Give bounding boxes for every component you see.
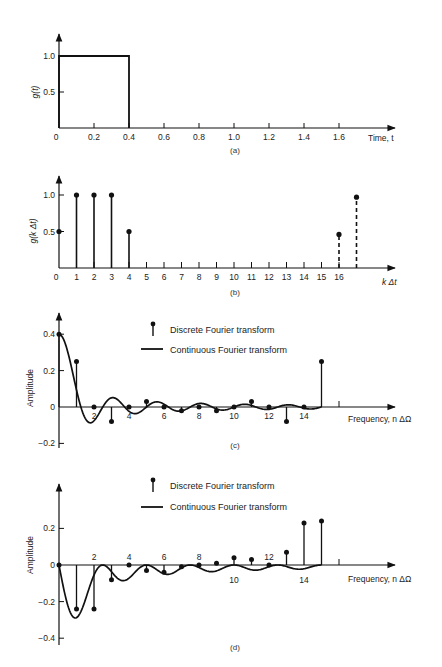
panel-b-xtick-label: 7 [179, 272, 184, 282]
legend-continuous-label: Continuous Fourier transform [170, 345, 287, 355]
panel-b-xtick-label: 8 [197, 272, 202, 282]
panel-d-stem-dot [319, 519, 324, 524]
panel-b-xtick-label: 6 [162, 272, 167, 282]
panel-d-caption: (d) [230, 643, 240, 652]
panel-d-stem-dot [197, 563, 202, 568]
panel-d-ylabel: Amplitude [25, 536, 35, 574]
panel-c: Amplitude Frequency, n ΔΩ (c) Discrete F… [25, 313, 411, 450]
legend-continuous-label: Continuous Fourier transform [170, 502, 287, 512]
panel-a-ytick-label: 1.0 [43, 51, 55, 61]
panel-a-origin-label: 0 [54, 132, 59, 142]
panel-b-xtick-label: 1 [74, 272, 79, 282]
panel-a-xtick-label: 0.4 [123, 132, 135, 142]
panel-c-ytick-label: 0.2 [43, 366, 55, 376]
legend-stem-dot-icon [151, 322, 156, 327]
panel-a-xtick-label: 1.2 [263, 132, 275, 142]
panel-c-legend: Discrete Fourier transform Continuous Fo… [141, 322, 287, 355]
panel-d-xtick-label: 10 [229, 575, 239, 585]
panel-c-ytick-label: 0 [50, 402, 55, 412]
panel-d-stem-dot [127, 563, 132, 568]
panel-b: g(k Δt) 0 k Δt (b) 123456789101112131415… [28, 176, 397, 297]
legend-discrete-label: Discrete Fourier transform [170, 325, 275, 335]
panel-a-xtick-label: 0.2 [88, 132, 100, 142]
panel-d-stem-dot [144, 568, 149, 573]
panel-b-xtick-label: 9 [214, 272, 219, 282]
panel-d-xtick-label: 2 [92, 552, 97, 562]
panel-c-stem-dot [162, 405, 167, 410]
panel-b-xtick-label: 15 [317, 272, 327, 282]
panel-a-xtick-label: 1.4 [298, 132, 310, 142]
legend-discrete-label: Discrete Fourier transform [170, 481, 275, 491]
panel-d-stem-dot [109, 577, 114, 582]
panel-c-xtick-label: 8 [197, 411, 202, 421]
panel-b-ytick-label: 0.5 [43, 227, 55, 237]
panel-d-stem-dot [284, 550, 289, 555]
panel-c-stem-dot [197, 405, 202, 410]
panel-d-stem-dot [74, 606, 79, 611]
panel-b-stem-dot [109, 192, 114, 197]
panel-d-legend: Discrete Fourier transform Continuous Fo… [141, 478, 287, 512]
panel-c-xtick-label: 12 [264, 411, 274, 421]
panel-d-continuous-curve [59, 565, 322, 618]
panel-d-stem-dot [92, 606, 97, 611]
panel-b-xtick-label: 12 [264, 272, 274, 282]
panel-b-xtick-label: 5 [144, 272, 149, 282]
panel-d-stem-dot [302, 520, 307, 525]
panel-a-xlabel: Time, t [368, 133, 394, 143]
panel-d-stem-dot [214, 561, 219, 566]
panel-d-xlabel: Frequency, n ΔΩ [348, 574, 411, 584]
panel-c-ytick-label: 0.4 [43, 329, 55, 339]
panel-b-xtick-label: 3 [109, 272, 114, 282]
panel-c-ytick-label: −0.2 [38, 438, 55, 448]
panel-b-xtick-label: 4 [127, 272, 132, 282]
panel-b-stem-dot [74, 192, 79, 197]
panel-d-stem-dot [179, 564, 184, 569]
panel-a-xtick-label: 0.8 [193, 132, 205, 142]
panel-b-stem-dot [91, 192, 96, 197]
panel-b-xtick-label: 14 [299, 272, 309, 282]
panel-d: Amplitude Frequency, n ΔΩ (d) Discrete F… [25, 478, 411, 652]
panel-b-stem-dot [56, 229, 61, 234]
panel-b-origin-label: 0 [54, 272, 59, 282]
panel-c-stem-dot [127, 405, 132, 410]
panel-c-caption: (c) [230, 441, 240, 450]
panel-a-ylabel: g(t) [30, 85, 40, 98]
figure: g(t) 0 Time, t (a) 0.20.40.60.81.01.21.4… [0, 0, 442, 667]
panel-c-stem-dot [109, 419, 114, 424]
panel-d-ytick-label: −0.2 [38, 597, 55, 607]
panel-b-ylabel: g(k Δt) [28, 218, 38, 243]
panel-d-ytick-label: −0.4 [38, 633, 55, 643]
panel-c-stem-dot [144, 399, 149, 404]
panel-c-stem-dot [232, 405, 237, 410]
panel-d-ytick-label: 0.2 [43, 523, 55, 533]
panel-c-stem-dot [74, 359, 79, 364]
panel-d-xtick-label: 8 [197, 552, 202, 562]
panel-d-stem-dot [232, 555, 237, 560]
panel-d-ytick-label: 0 [50, 560, 55, 570]
panel-c-xtick-label: 10 [229, 411, 239, 421]
panel-c-stem-dot [302, 405, 307, 410]
panel-d-stem-dot [267, 563, 272, 568]
panel-c-stem-dot [92, 405, 97, 410]
panel-d-xtick-label: 6 [162, 552, 167, 562]
panel-c-ylabel: Amplitude [25, 369, 35, 407]
panel-d-xtick-label: 14 [299, 575, 309, 585]
panel-d-stem-dot [57, 563, 62, 568]
panel-d-xtick-label: 4 [127, 552, 132, 562]
panel-b-stem-dot [336, 232, 341, 237]
panel-a-xtick-label: 1.0 [228, 132, 240, 142]
panel-c-stem-dot [319, 359, 324, 364]
panel-b-xtick-label: 2 [92, 272, 97, 282]
panel-b-stem-dot [354, 195, 359, 200]
panel-d-stem-dot [162, 570, 167, 575]
panel-c-stem-dot [249, 399, 254, 404]
panel-a-xtick-label: 1.6 [333, 132, 345, 142]
panel-c-xlabel: Frequency, n ΔΩ [348, 414, 411, 424]
panel-c-stem-dot [214, 408, 219, 413]
panel-a-xtick-label: 0.6 [158, 132, 170, 142]
panel-b-xtick-label: 11 [247, 272, 256, 282]
panel-c-xtick-label: 14 [299, 411, 309, 421]
panel-b-xtick-label: 10 [229, 272, 239, 282]
panel-c-stem-dot [179, 408, 184, 413]
panel-c-stem-dot [267, 405, 272, 410]
